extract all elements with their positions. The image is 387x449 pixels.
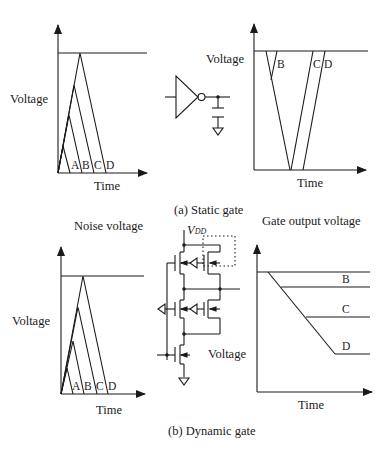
gate-output-voltage-title: Gate output voltage [262,215,361,228]
curve-label-c: C [313,59,321,71]
dynamic-gate-circuit [157,230,240,385]
caption-dynamic-gate: (b) Dynamic gate [168,425,255,438]
pulse-label-d: D [106,160,114,172]
curve-label-b: B [277,59,285,71]
noise-voltage-title: Noise voltage [74,220,143,233]
static-output-xlabel: Time [297,177,323,190]
pulse-label-a: A [71,160,79,172]
pulse-label-a: A [72,381,80,393]
pulse-label-d: D [108,381,116,393]
curve-label-b: B [342,274,350,286]
pulse-label-c: C [94,160,102,172]
dynamic-noise-ylabel: Voltage [12,315,50,328]
static-output-plot [254,24,368,170]
pulse-label-c: C [96,381,104,393]
dynamic-output-xlabel: Time [298,399,324,412]
static-output-ylabel: Voltage [206,53,244,66]
curve-label-d: D [324,59,332,71]
pulse-label-b: B [84,381,92,393]
curve-label-d: D [342,341,350,353]
dynamic-noise-xlabel: Time [96,404,122,417]
static-noise-ylabel: Voltage [10,93,48,106]
dynamic-output-plot [257,245,372,392]
pulse-label-b: B [82,160,90,172]
caption-static-gate: (a) Static gate [174,204,243,217]
static-noise-plot [58,25,147,173]
curve-label-c: C [342,304,350,316]
dynamic-noise-plot [61,247,145,394]
static-noise-xlabel: Time [94,180,120,193]
static-inverter-circuit [165,76,230,135]
vdd-label: VDD [187,224,206,237]
node-voltage-label: Voltage [208,348,246,361]
